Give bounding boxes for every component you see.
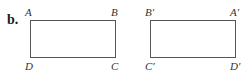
rectangle-abcd xyxy=(30,20,116,58)
vertex-label-d-prime: D′ xyxy=(230,61,240,72)
rectangle-image xyxy=(150,20,236,58)
vertex-label-a-prime: A′ xyxy=(230,7,239,18)
vertex-label-b: B xyxy=(111,7,118,18)
vertex-label-d: D xyxy=(25,61,33,72)
part-label: b. xyxy=(7,12,18,28)
vertex-label-c: C xyxy=(111,61,118,72)
vertex-label-c-prime: C′ xyxy=(145,61,155,72)
vertex-label-a: A xyxy=(25,7,32,18)
vertex-label-b-prime: B′ xyxy=(145,7,154,18)
